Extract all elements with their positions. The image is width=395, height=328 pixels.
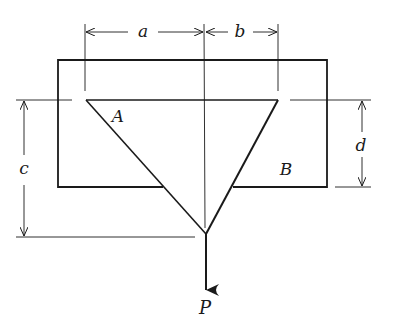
label-d: d xyxy=(356,135,367,155)
statics-diagram: a b c d A B P xyxy=(0,0,395,328)
label-b: b xyxy=(235,21,246,41)
label-P: P xyxy=(198,297,212,318)
extension-lines xyxy=(16,24,371,237)
label-a: a xyxy=(138,21,148,41)
label-B: B xyxy=(279,159,293,179)
label-c: c xyxy=(19,158,29,178)
label-A: A xyxy=(110,106,124,126)
centerline xyxy=(204,24,205,228)
